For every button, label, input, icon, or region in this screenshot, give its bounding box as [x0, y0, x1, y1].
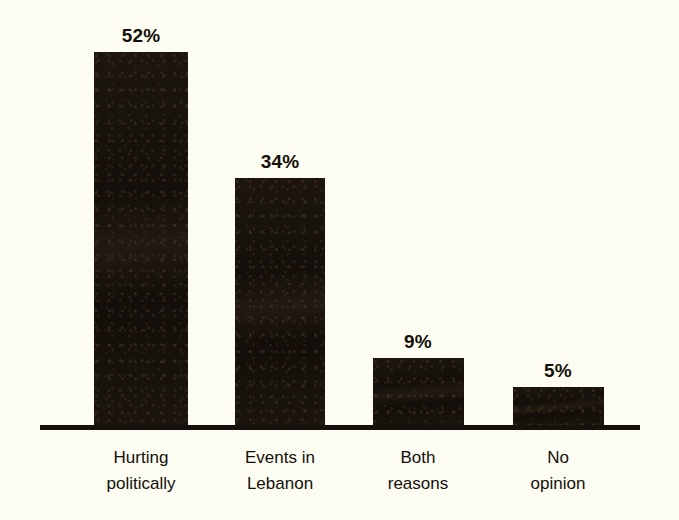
value-label-events-in-lebanon: 34%: [210, 152, 350, 171]
bar-chart: 52% 34% 9% 5% Hurting politically Events…: [0, 0, 679, 520]
value-label-both-reasons: 9%: [348, 332, 488, 351]
value-label-hurting-politically: 52%: [71, 26, 211, 45]
bar-hurting-politically[interactable]: [94, 52, 188, 425]
bar-both-reasons[interactable]: [373, 358, 464, 425]
x-axis-baseline: [40, 425, 640, 430]
bar-events-in-lebanon[interactable]: [235, 178, 325, 425]
category-label-no-opinion: No opinion: [468, 445, 648, 497]
category-label-line-2: opinion: [468, 471, 648, 497]
value-label-no-opinion: 5%: [488, 361, 628, 380]
plot-area: 52% 34% 9% 5% Hurting politically Events…: [0, 0, 679, 520]
category-label-line-1: No: [468, 445, 648, 471]
bar-no-opinion[interactable]: [513, 387, 604, 425]
